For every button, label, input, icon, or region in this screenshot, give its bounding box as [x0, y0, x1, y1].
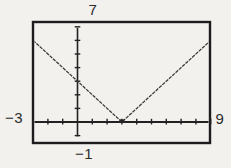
window-border: [33, 22, 210, 143]
graph-canvas: [0, 0, 231, 168]
graph-curve: [33, 40, 211, 122]
vertex-dot: [120, 119, 125, 123]
calculator-graph-figure: 7 −3 9 −1: [0, 0, 231, 168]
